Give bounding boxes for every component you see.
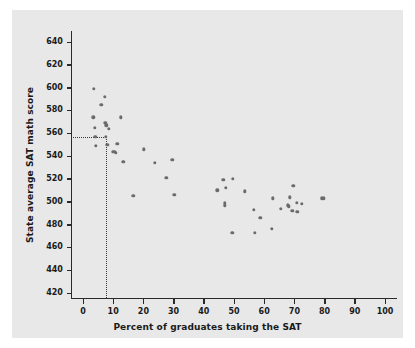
data-point [216, 189, 219, 192]
x-tick-label: 20 [128, 307, 158, 316]
data-point [94, 144, 97, 147]
data-point [115, 142, 118, 145]
reference-line-horizontal [71, 137, 106, 138]
data-point [322, 197, 325, 200]
y-tick-mark [67, 133, 71, 135]
x-tick-label: 50 [219, 307, 249, 316]
x-tick-mark [234, 299, 236, 304]
y-tick-mark [67, 247, 71, 249]
data-point [107, 127, 110, 130]
data-point [165, 176, 168, 179]
data-point [104, 135, 107, 138]
x-tick-mark [264, 299, 266, 304]
reference-line-vertical [106, 137, 107, 298]
x-tick-label: 40 [189, 307, 219, 316]
data-point [173, 193, 176, 196]
data-point [119, 116, 122, 119]
data-point [291, 209, 294, 212]
y-tick-mark [67, 293, 71, 295]
data-point [122, 160, 125, 163]
x-tick-label: 30 [159, 307, 189, 316]
data-point [279, 207, 282, 210]
x-tick-mark [113, 299, 115, 304]
x-tick-mark [173, 299, 175, 304]
scatter-plot-figure: 4204404604805005205405605806006206400102… [0, 0, 415, 348]
data-point [131, 194, 134, 197]
y-tick-mark [67, 270, 71, 272]
x-tick-label: 90 [340, 307, 370, 316]
x-axis-title: Percent of graduates taking the SAT [0, 322, 415, 332]
data-point [171, 158, 174, 161]
y-tick-mark [67, 156, 71, 158]
data-point [270, 227, 273, 230]
y-tick-mark [67, 110, 71, 112]
x-tick-label: 80 [310, 307, 340, 316]
data-point [243, 190, 246, 193]
y-tick-mark [67, 178, 71, 180]
y-axis-title: State average SAT math score [25, 65, 35, 265]
x-tick-label: 10 [98, 307, 128, 316]
data-point [231, 177, 234, 180]
data-point [103, 95, 106, 98]
data-point [253, 231, 256, 234]
data-point [114, 151, 117, 154]
data-point [94, 135, 97, 138]
x-tick-label: 100 [370, 307, 400, 316]
x-tick-mark [203, 299, 205, 304]
x-tick-mark [143, 299, 145, 304]
x-tick-mark [354, 299, 356, 304]
data-point [296, 210, 299, 213]
y-tick-mark [67, 87, 71, 89]
data-point [93, 126, 96, 129]
data-point [295, 201, 298, 204]
y-tick-mark [67, 224, 71, 226]
x-tick-label: 70 [279, 307, 309, 316]
data-point [99, 103, 102, 106]
data-point [291, 184, 294, 187]
data-point [92, 87, 95, 90]
data-point [105, 143, 108, 146]
y-tick-label: 440 [29, 265, 63, 274]
data-point [231, 231, 234, 234]
x-tick-mark [83, 299, 85, 304]
data-point [153, 161, 156, 164]
data-point [142, 148, 145, 151]
data-point [92, 116, 95, 119]
data-point [222, 178, 225, 181]
y-tick-label: 640 [29, 37, 63, 46]
y-tick-mark [67, 42, 71, 44]
data-point [287, 205, 290, 208]
y-tick-mark [67, 201, 71, 203]
x-tick-mark [324, 299, 326, 304]
plot-drawing-area: 4204404604805005205405605806006206400102… [0, 0, 415, 348]
y-axis-spine [71, 31, 73, 298]
data-point [300, 202, 303, 205]
x-tick-label: 0 [68, 307, 98, 316]
x-tick-label: 60 [249, 307, 279, 316]
y-tick-label: 420 [29, 288, 63, 297]
x-tick-mark [385, 299, 387, 304]
data-point [271, 197, 274, 200]
data-point [224, 186, 227, 189]
y-tick-mark [67, 64, 71, 66]
data-point [259, 216, 262, 219]
data-point [223, 203, 226, 206]
x-tick-mark [294, 299, 296, 304]
data-point [252, 208, 255, 211]
data-point [288, 195, 291, 198]
